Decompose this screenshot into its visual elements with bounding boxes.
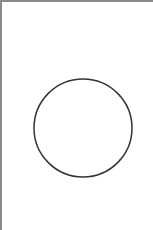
drawing-canvas bbox=[0, 0, 153, 230]
circle-shape bbox=[34, 79, 132, 177]
shape-layer bbox=[2, 2, 153, 230]
